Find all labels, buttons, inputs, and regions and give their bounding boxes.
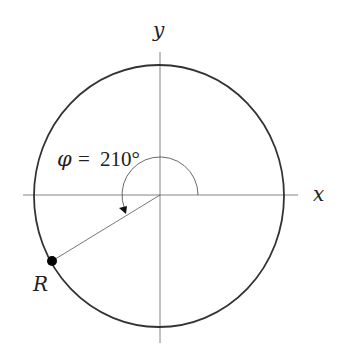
x-axis-label: x <box>313 182 324 206</box>
arrowhead-icon <box>119 206 127 214</box>
angle-symbol: φ <box>57 147 72 171</box>
angle-equals: = <box>78 147 90 171</box>
radius-line <box>52 195 160 261</box>
unit-circle-diagram: y x R φ = 210° <box>0 0 345 344</box>
y-axis-label: y <box>152 18 165 42</box>
angle-value: 210° <box>100 147 140 171</box>
point-r <box>47 256 57 266</box>
point-label: R <box>32 272 48 296</box>
